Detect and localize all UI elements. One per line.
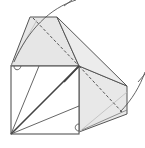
fold-arrow-top-tail [64,0,72,6]
fold-diagram [0,0,145,148]
